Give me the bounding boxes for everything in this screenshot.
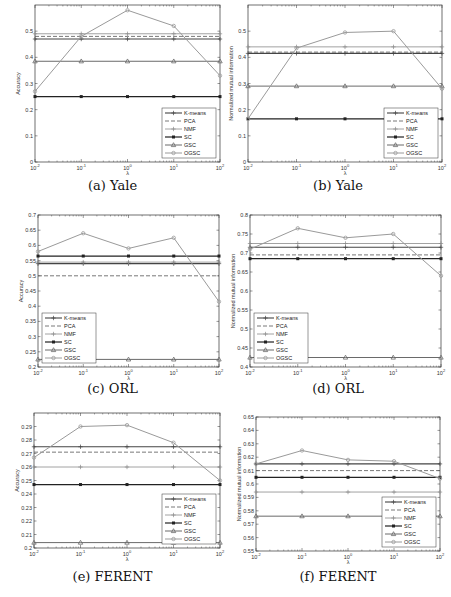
y-tick-label: 0.6 [240,288,248,294]
x-tick-label: 10-2 [251,552,261,560]
y-tick-label: 0.26 [21,464,32,470]
legend-entry-pca: PCA [64,323,76,329]
square-marker [219,483,222,486]
square-marker [440,257,443,260]
legend-entry-ogsc: OGSC [64,355,80,361]
x-axis-label: λ [344,170,347,176]
square-marker [37,255,40,258]
square-marker [344,117,347,120]
legend: K-meansPCANMFSCGSCOGSC [162,108,216,158]
legend-entry-pca: PCA [184,504,196,510]
legend-entry-k-means: K-means [64,315,86,321]
chart-panel-c-orl-accuracy: 0.20.250.30.350.40.450.50.550.60.650.710… [0,197,225,397]
legend-entry-gsc: GSC [406,142,418,148]
x-tick-label: 10-2 [245,368,255,376]
y-tick-label: 0.56 [243,535,254,541]
y-tick-label: 0.62 [243,454,254,460]
square-marker [82,255,85,258]
legend-entry-ogsc: OGSC [184,150,200,156]
x-tick-label: 102 [216,549,225,557]
x-tick-label: 101 [390,552,399,560]
y-tick-label: 0.35 [25,318,36,324]
caption-e: (e) FERENT [0,569,225,584]
x-tick-label: 10-1 [76,163,86,171]
y-tick-label: 0.4 [238,54,246,60]
square-marker [126,95,129,98]
square-marker [347,476,350,479]
legend-entry-ogsc: OGSC [184,536,200,542]
square-marker [79,483,82,486]
y-tick-label: 0.7 [28,212,36,218]
caption-b: (b) Yale [225,178,451,193]
x-tick-label: 102 [215,368,224,376]
chart-panel-a-yale-accuracy: 00.10.20.30.40.510-210-1100101102λAccura… [0,0,225,197]
y-tick-label: 0.2 [238,107,246,113]
legend-entry-nmf: NMF [64,331,77,337]
chart-panel-d-orl-nmi: 0.40.450.50.550.60.650.70.750.810-210-11… [225,197,451,397]
square-marker [52,341,55,344]
x-tick-label: 10-2 [243,163,253,171]
y-tick-label: 0.24 [21,491,32,497]
square-marker [126,483,129,486]
y-tick-label: 0.7 [240,250,248,256]
y-tick-label: 0.29 [21,424,32,430]
legend-entry-ogsc: OGSC [406,150,422,156]
square-marker [344,257,347,260]
x-tick-label: 102 [437,368,446,376]
square-marker [172,522,175,525]
y-tick-label: 0.27 [21,451,32,457]
x-tick-label: 102 [216,163,225,171]
x-tick-label: 101 [389,163,398,171]
chart-panel-e-ferent-accuracy: 0.20.210.220.230.240.250.260.270.280.291… [0,397,225,597]
square-marker [301,476,304,479]
legend-entry-gsc: GSC [184,528,196,534]
y-tick-label: 0.1 [238,133,246,139]
y-tick-label: 0.22 [21,518,32,524]
y-tick-label: 0.2 [25,107,33,113]
caption-a: (a) Yale [0,178,225,193]
y-tick-label: 0.45 [25,288,36,294]
y-tick-label: 0.65 [243,414,254,420]
x-tick-label: 10-2 [30,163,40,171]
legend-entry-sc: SC [276,339,284,345]
legend: K-meansPCANMFSCGSCOGSC [384,108,438,158]
square-marker [172,255,175,258]
x-axis-label: λ [126,170,129,176]
square-marker [392,257,395,260]
square-marker [172,483,175,486]
legend-entry-pca: PCA [184,118,196,124]
square-marker [172,95,175,98]
legend-entry-k-means: K-means [404,499,426,505]
y-tick-label: 0.5 [238,28,246,34]
legend-entry-k-means: K-means [276,315,298,321]
square-marker [295,117,298,120]
y-tick-label: 0.25 [25,349,36,355]
y-axis-label: Accuracy [14,469,20,492]
y-tick-label: 0.55 [237,307,248,313]
y-tick-label: 0.5 [240,326,248,332]
y-tick-label: 0.25 [21,478,32,484]
square-marker [80,95,83,98]
y-tick-label: 0.8 [240,212,248,218]
square-marker [296,257,299,260]
y-tick-label: 0.3 [238,81,246,87]
x-tick-label: 102 [436,552,445,560]
x-tick-label: 10-1 [292,163,302,171]
chart-b-svg: 00.10.20.30.40.510-210-1100101102λNormal… [225,0,451,197]
legend-entry-nmf: NMF [276,331,289,337]
x-tick-label: 10-1 [78,368,88,376]
legend-entry-nmf: NMF [404,515,417,521]
y-tick-label: 0.3 [25,81,33,87]
y-tick-label: 0.55 [25,258,36,264]
x-tick-label: 101 [170,163,179,171]
legend-entry-sc: SC [406,134,414,140]
legend-entry-gsc: GSC [276,347,288,353]
chart-panel-b-yale-nmi: 00.10.20.30.40.510-210-1100101102λNormal… [225,0,451,197]
legend-entry-sc: SC [184,134,192,140]
square-marker [218,255,221,258]
x-tick-label: 10-1 [293,368,303,376]
y-tick-label: 0.65 [237,269,248,275]
x-tick-label: 10-2 [29,549,39,557]
legend-entry-nmf: NMF [184,512,197,518]
y-tick-label: 0.5 [28,273,36,279]
